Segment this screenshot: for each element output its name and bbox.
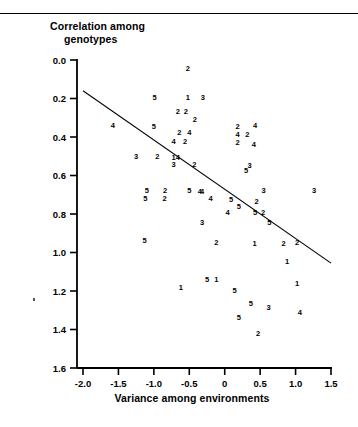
y-tick-label: 0.2: [53, 93, 66, 104]
x-tick-labels: -2.0-1.5-1.0-0.500.51.01.5: [75, 378, 339, 389]
x-tick-label: -1.0: [146, 378, 162, 389]
data-point: 2: [192, 160, 196, 169]
data-point: 5: [267, 218, 271, 227]
data-point: 5: [152, 93, 156, 102]
data-point: 1: [285, 257, 289, 266]
data-point: 1: [252, 239, 256, 248]
x-tick-label: -0.5: [181, 378, 198, 389]
y-tick-label: 0.4: [53, 132, 67, 143]
y-tick-label: 0.8: [53, 209, 66, 220]
y-tick-label: 1.2: [53, 286, 66, 297]
data-point: 2: [177, 128, 181, 137]
data-point: 4: [200, 187, 205, 196]
data-point: 2: [281, 239, 285, 248]
x-tick-label: 0.5: [254, 378, 268, 389]
data-points-group: 2513222452424424224321432355254433524525…: [111, 64, 316, 338]
data-point: 5: [237, 313, 241, 322]
data-point: 4: [298, 308, 303, 317]
data-point: 5: [253, 208, 257, 217]
data-point: 2: [155, 152, 159, 161]
data-point: 2: [255, 197, 259, 206]
data-point: 2: [256, 329, 260, 338]
data-point: 2: [214, 238, 218, 247]
x-tick-label: 1.5: [324, 378, 338, 389]
data-point: 1: [295, 279, 299, 288]
data-point: 3: [201, 93, 205, 102]
data-point: 5: [249, 299, 253, 308]
y-tick-label: 1.6: [53, 363, 66, 374]
data-point: 4: [187, 128, 192, 137]
data-point: 2: [186, 64, 190, 73]
data-point: 2: [163, 186, 167, 195]
regression-trendline: [83, 91, 331, 263]
axes-group: [70, 59, 332, 375]
x-axis-title: Variance among environments: [0, 392, 358, 404]
data-point: 4: [253, 121, 258, 130]
y-tick-label: 1.4: [53, 324, 67, 335]
x-tick-label: -2.0: [75, 378, 91, 389]
x-tick-label: -1.5: [110, 378, 127, 389]
data-point: 3: [172, 160, 176, 169]
data-point: 1: [214, 275, 218, 284]
data-point: 4: [225, 208, 230, 217]
data-point: 2: [176, 107, 180, 116]
data-point: 2: [295, 238, 299, 247]
data-point: 5: [237, 202, 241, 211]
data-point: 4: [111, 121, 116, 130]
data-point: 5: [143, 236, 147, 245]
y-tick-marks: [70, 60, 77, 368]
data-point: 5: [244, 166, 248, 175]
data-point: 3: [267, 303, 271, 312]
y-tick-label: 0.6: [53, 170, 66, 181]
data-point: 2: [162, 194, 166, 203]
data-point: 1: [179, 283, 183, 292]
data-point: 5: [229, 195, 233, 204]
data-point: 5: [145, 186, 149, 195]
data-point: 2: [245, 130, 249, 139]
x-tick-label: 0: [222, 378, 227, 389]
plot-canvas: 1.61.41.21.00.80.60.40.20.0 -2.0-1.5-1.0…: [0, 0, 358, 427]
data-point: 2: [184, 107, 188, 116]
data-point: 3: [312, 186, 316, 195]
data-point: 2: [261, 208, 265, 217]
data-point: 4: [208, 194, 213, 203]
data-point: 4: [252, 140, 257, 149]
scatter-plot-figure: Correlation among genotypes 1.61.41.21.0…: [0, 0, 358, 427]
trendline: [83, 91, 331, 263]
data-point: 4: [176, 153, 181, 162]
data-point: 5: [152, 122, 156, 131]
data-point: 5: [187, 186, 191, 195]
data-point: 3: [200, 218, 204, 227]
data-point: 4: [172, 137, 177, 146]
data-point: 3: [262, 186, 266, 195]
data-point: 5: [233, 286, 237, 295]
y-tick-label: 1.0: [53, 247, 66, 258]
data-point: 2: [193, 115, 197, 124]
data-point: 5: [143, 194, 147, 203]
data-point: 2: [235, 138, 239, 147]
data-point: 2: [183, 137, 187, 146]
x-tick-label: 1.0: [289, 378, 302, 389]
y-tick-label: 0.0: [53, 55, 66, 66]
data-point: 1: [186, 93, 190, 102]
data-point: 3: [134, 152, 138, 161]
y-tick-labels: 1.61.41.21.00.80.60.40.20.0: [53, 55, 67, 374]
data-point: 5: [205, 275, 209, 284]
x-tick-marks: [83, 368, 331, 375]
